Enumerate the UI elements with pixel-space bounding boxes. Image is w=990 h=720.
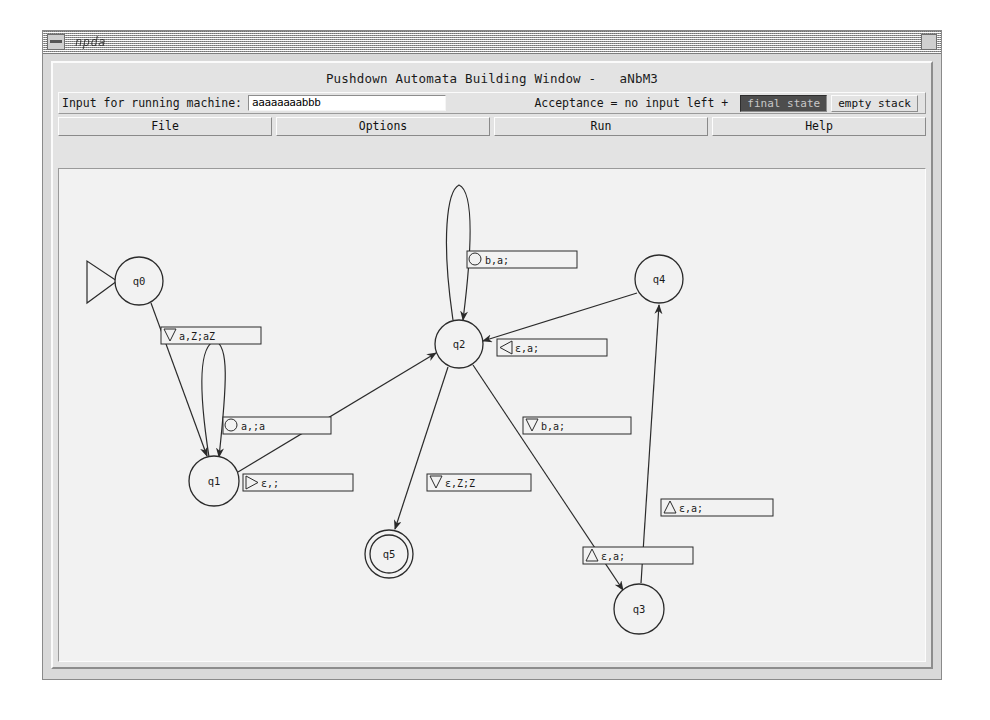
edge-q3-q4[interactable]: [641, 305, 659, 583]
edge-q4-q2[interactable]: [483, 293, 637, 341]
input-label: Input for running machine:: [62, 96, 242, 110]
transition-label-q2-q5[interactable]: ε,Z;Z: [427, 474, 531, 491]
state-q5-label: q5: [383, 548, 396, 560]
state-q4-label: q4: [653, 273, 666, 285]
transition-label-q1-q2-text: ε,;: [261, 478, 279, 489]
transition-label-q3-q4[interactable]: ε,a;: [661, 499, 773, 516]
transition-label-q3-q3[interactable]: ε,a;: [583, 547, 693, 564]
menu-run[interactable]: Run: [494, 117, 708, 136]
transition-label-q0-q1-text: a,Z;aZ: [179, 331, 215, 342]
transition-label-q1-q2[interactable]: ε,;: [243, 474, 353, 491]
transition-labels: a,Z;aZ a,;a ε,;: [161, 251, 773, 564]
menu-options[interactable]: Options: [276, 117, 490, 136]
transition-label-q0-q1[interactable]: a,Z;aZ: [161, 327, 261, 344]
menu-file[interactable]: File: [58, 117, 272, 136]
state-q4[interactable]: q4: [635, 255, 683, 303]
acceptance-empty-stack-button[interactable]: empty stack: [831, 95, 918, 112]
state-q0-label: q0: [133, 275, 146, 287]
acceptance-final-state-button[interactable]: final state: [740, 95, 827, 112]
state-q2[interactable]: q2: [435, 320, 483, 368]
state-q5[interactable]: q5: [365, 530, 413, 578]
transition-label-q2-q2[interactable]: b,a;: [467, 251, 577, 268]
window-close-icon[interactable]: [921, 34, 937, 50]
screen-root: npda Pushdown Automata Building Window -…: [0, 0, 990, 720]
transition-edges: [151, 185, 659, 590]
window-titlebar[interactable]: npda: [43, 31, 941, 54]
state-q1-label: q1: [208, 475, 221, 487]
transition-label-q2-q2-text: b,a;: [485, 255, 509, 266]
states-group: q0 q1 q2 q3: [115, 255, 683, 634]
state-q1[interactable]: q1: [189, 456, 239, 506]
transition-label-q3-q3-text: ε,a;: [601, 551, 625, 562]
menubar: File Options Run Help: [58, 117, 926, 136]
input-string-field[interactable]: aaaaaaaabbb: [248, 95, 446, 111]
transition-label-q3-q4-text: ε,a;: [679, 503, 703, 514]
transition-label-q2-q3-text: b,a;: [541, 421, 565, 432]
transition-label-q4-q2-text: ε,a;: [515, 343, 539, 354]
state-q3[interactable]: q3: [614, 584, 664, 634]
edge-q0-q1[interactable]: [151, 303, 207, 456]
npda-window: npda Pushdown Automata Building Window -…: [42, 30, 942, 680]
transition-label-q4-q2[interactable]: ε,a;: [497, 339, 607, 356]
state-q3-label: q3: [633, 603, 646, 615]
transition-label-q2-q5-text: ε,Z;Z: [445, 478, 475, 489]
transition-label-q1-q1-text: a,;a: [241, 421, 265, 432]
menu-help[interactable]: Help: [712, 117, 926, 136]
controls-row: Input for running machine: aaaaaaaabbb A…: [58, 92, 926, 114]
page-title: Pushdown Automata Building Window - aNbM…: [56, 66, 928, 92]
main-panel: Pushdown Automata Building Window - aNbM…: [51, 61, 933, 669]
window-menu-icon[interactable]: [47, 34, 65, 50]
state-q0[interactable]: q0: [115, 257, 163, 305]
window-title: npda: [75, 35, 106, 49]
edge-q2-q5[interactable]: [395, 367, 448, 529]
transition-label-q2-q3[interactable]: b,a;: [523, 417, 631, 434]
acceptance-label: Acceptance = no input left +: [534, 96, 728, 110]
transition-label-q1-q1[interactable]: a,;a: [223, 417, 331, 434]
state-q2-label: q2: [453, 338, 466, 350]
edge-q1-q2[interactable]: [238, 353, 436, 472]
automaton-svg[interactable]: q0 q1 q2 q3: [59, 169, 925, 662]
start-arrow-icon: [87, 261, 117, 303]
automaton-canvas[interactable]: q0 q1 q2 q3: [58, 168, 926, 662]
edge-q1-q1[interactable]: [202, 341, 225, 457]
